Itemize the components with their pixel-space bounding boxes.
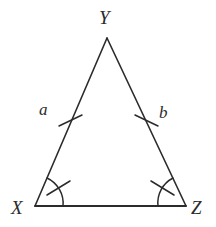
angle-arc-Z (158, 178, 173, 206)
vertex-label-z: Z (191, 198, 202, 217)
side-YZ-line (107, 38, 186, 206)
angle-arc-X (47, 178, 63, 206)
side-label-a: a (39, 101, 48, 118)
vertex-label-y: Y (99, 8, 110, 27)
side-XY-line (35, 38, 107, 206)
angle-tick-X (47, 181, 70, 195)
triangle-diagram-svg (0, 0, 216, 227)
vertex-label-x: X (11, 198, 23, 217)
angle-tick-Z (151, 181, 174, 195)
side-YZ-tick-mark (135, 115, 158, 126)
geometry-figure: Y X Z a b (0, 0, 216, 227)
side-label-b: b (159, 104, 168, 121)
